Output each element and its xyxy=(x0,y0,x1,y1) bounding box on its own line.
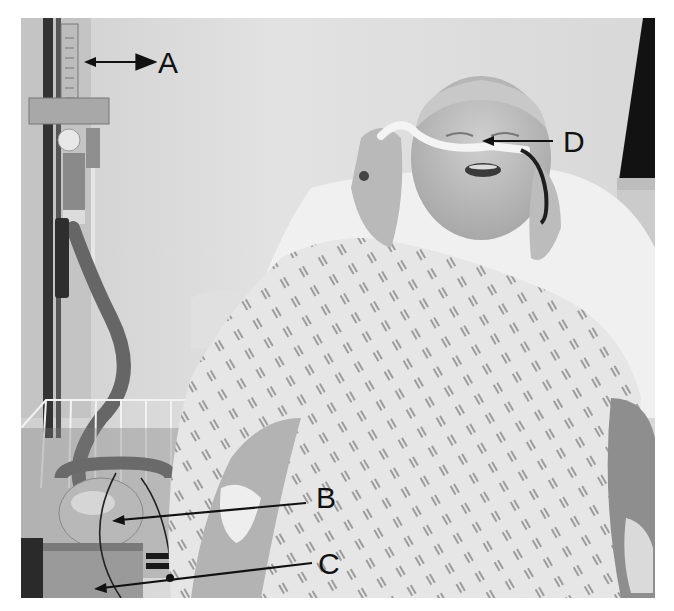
window-sill xyxy=(617,178,655,190)
label-d: D xyxy=(563,127,585,157)
photo-scene xyxy=(21,18,655,598)
label-a: A xyxy=(158,48,178,78)
label-c: C xyxy=(318,549,340,579)
simulator-photo xyxy=(21,18,655,598)
device-base xyxy=(43,543,143,598)
wall-mount-bracket xyxy=(29,98,109,124)
flow-knob xyxy=(58,129,80,151)
label-b: B xyxy=(316,483,336,513)
iv-pole xyxy=(43,18,53,438)
